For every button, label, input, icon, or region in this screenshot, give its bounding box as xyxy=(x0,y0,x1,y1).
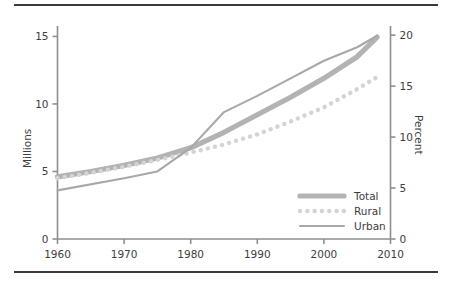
y-tick-label-left-15: 15 xyxy=(9,31,49,42)
y-tick-label-right-0: 0 xyxy=(400,234,440,245)
line-chart-plot xyxy=(0,0,449,288)
y-tick-label-left-0: 0 xyxy=(9,234,49,245)
x-tick-label-2010: 2010 xyxy=(371,249,411,260)
y-axis-title-left: Millions xyxy=(22,128,33,167)
x-tick-label-1970: 1970 xyxy=(104,249,144,260)
y-tick-label-left-10: 10 xyxy=(9,99,49,110)
y-tick-label-right-5: 5 xyxy=(400,183,440,194)
y-axis-title-right: Percent xyxy=(414,115,425,155)
series-group xyxy=(58,36,378,191)
series-line-rural xyxy=(58,77,378,178)
x-tick-label-2000: 2000 xyxy=(304,249,344,260)
legend-label-rural: Rural xyxy=(354,206,381,217)
y-tick-label-right-15: 15 xyxy=(400,81,440,92)
chart-figure: 05101505101520196019701980199020002010 M… xyxy=(0,0,449,288)
y-tick-label-right-20: 20 xyxy=(400,30,440,41)
legend-label-urban: Urban xyxy=(354,221,386,232)
x-tick-label-1990: 1990 xyxy=(237,249,277,260)
x-tick-label-1960: 1960 xyxy=(38,249,78,260)
x-tick-label-1980: 1980 xyxy=(171,249,211,260)
y-tick-label-left-5: 5 xyxy=(9,166,49,177)
legend-label-total: Total xyxy=(354,191,379,202)
legend-swatch-group xyxy=(300,196,344,226)
